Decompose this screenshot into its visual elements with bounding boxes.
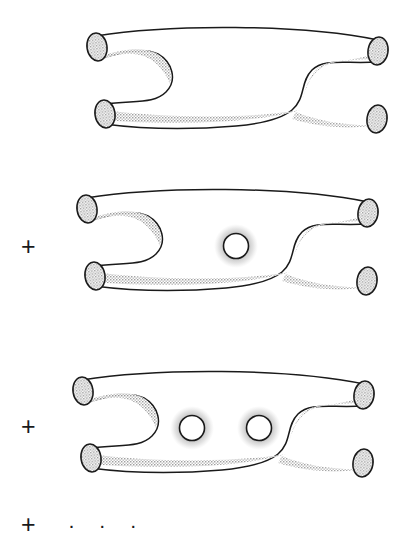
hole-outline <box>180 416 205 441</box>
hole-outline <box>224 234 249 259</box>
genus-1-surface <box>75 189 380 296</box>
worldsheet-diagram-svg <box>0 0 413 560</box>
genus-0-outline <box>96 27 378 128</box>
genus-0-cap-bottom-right <box>365 104 389 135</box>
figure-root: + + + · · · <box>0 0 413 560</box>
genus-2-outline <box>82 371 364 472</box>
genus-0-surface <box>85 27 390 134</box>
genus-1-hole-1 <box>214 224 258 268</box>
genus-2-hole-1 <box>170 406 214 450</box>
genus-1-cap-bottom-right <box>355 266 379 297</box>
plus-operator-1: + <box>21 234 36 259</box>
plus-operator-2: + <box>21 414 36 439</box>
genus-1-bottom-shading-right <box>282 274 366 289</box>
genus-0-bottom-shading-right <box>292 112 376 127</box>
genus-2-bottom-shading-right <box>278 456 362 471</box>
hole-outline <box>247 416 272 441</box>
genus-2-cap-bottom-right <box>351 448 375 479</box>
genus-2-hole-2 <box>237 406 281 450</box>
plus-operator-3: + <box>21 512 36 537</box>
continuation-ellipsis: · · · <box>68 514 146 535</box>
genus-2-surface <box>71 371 376 478</box>
